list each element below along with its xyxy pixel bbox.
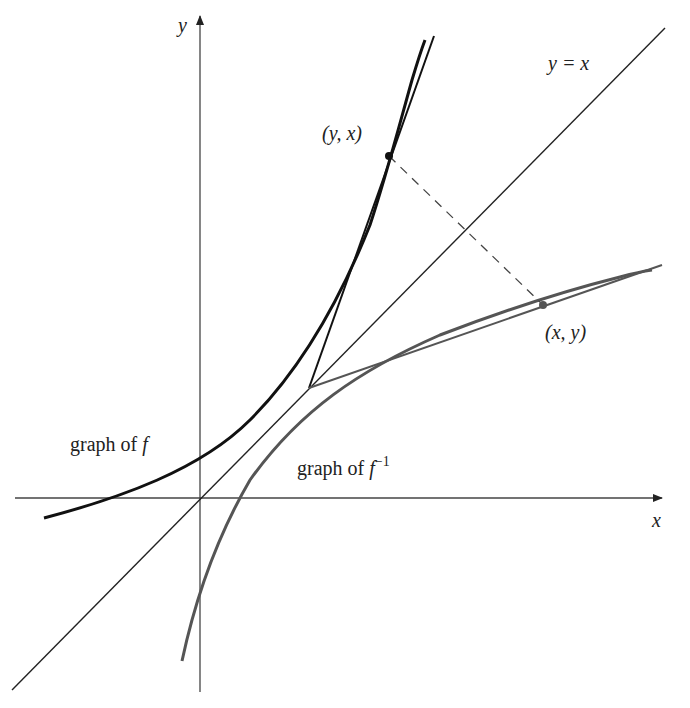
y-axis-label: y [176, 14, 187, 37]
tangent-line-f-inverse [309, 265, 662, 388]
x-axis-label: x [651, 509, 661, 531]
identity-line-label: y = x [546, 52, 589, 75]
graph-f-inverse-label-exponent: −1 [375, 454, 390, 469]
point-on-f-inverse [539, 301, 547, 309]
tangent-line-f [309, 36, 434, 388]
point-on-f-inverse-label: (x, y) [545, 321, 586, 344]
graph-f-label: graph of f [70, 433, 150, 456]
point-on-f-label: (y, x) [322, 122, 362, 145]
graph-f-inverse-label: graph of f−1 [297, 454, 390, 480]
point-on-f [385, 152, 393, 160]
inverse-function-diagram: y x y = x (y, x) (x, y) graph of f graph… [0, 0, 690, 708]
graph-f-label-prefix: graph of [70, 433, 142, 456]
graph-f-inverse-label-prefix: graph of [297, 457, 369, 480]
graph-f-label-symbol: f [142, 433, 150, 456]
